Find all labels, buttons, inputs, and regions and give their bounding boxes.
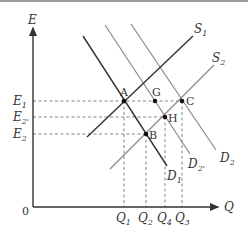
label-d2: D2 — [219, 151, 235, 167]
label-g: G — [152, 86, 161, 99]
xtick-q3: Q3 — [175, 211, 190, 227]
xtick-q4: Q4 — [157, 211, 172, 227]
ytick-e2prime: E2' — [12, 110, 29, 126]
xtick-q2: Q2 — [138, 211, 153, 227]
label-d2prime: D2' — [187, 157, 205, 173]
point-b — [144, 132, 149, 137]
label-c: C — [186, 95, 194, 108]
label-d1: D1 — [166, 169, 182, 185]
origin-label: 0 — [22, 205, 29, 218]
supply-curve-s2 — [110, 65, 214, 169]
label-b: B — [149, 129, 157, 142]
point-a — [122, 99, 127, 104]
supply-demand-diagram: A G C H B E Q 0 S1 S2 D1 D2' D2 E1 E2' E… — [0, 0, 248, 236]
xtick-q1: Q1 — [116, 211, 131, 227]
x-axis-label: Q — [224, 200, 234, 214]
point-g — [153, 99, 158, 104]
label-s1: S1 — [194, 22, 207, 38]
label-a: A — [119, 86, 129, 99]
point-c — [180, 99, 185, 104]
ytick-e1: E1 — [12, 94, 27, 110]
label-h: H — [168, 112, 178, 125]
ytick-e2: E2 — [12, 127, 27, 143]
point-h — [163, 115, 168, 120]
y-axis-label: E — [27, 13, 37, 27]
label-s2: S2 — [212, 51, 225, 67]
